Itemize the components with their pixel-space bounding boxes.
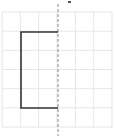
- grid: [2, 12, 112, 127]
- top-mark: [68, 1, 71, 3]
- reflection-diagram: [0, 0, 115, 136]
